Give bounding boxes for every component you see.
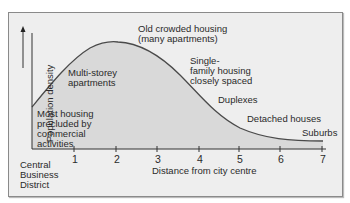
annotation-old-crowded: Old crowded housing (many apartments) (138, 24, 227, 44)
x-tick-6: 6 (275, 153, 287, 165)
x-tick-5: 5 (234, 153, 246, 165)
x-tick-2: 2 (111, 153, 123, 165)
annotation-suburbs: Suburbs (302, 128, 337, 138)
x-tick-4: 4 (194, 153, 206, 165)
annotation-duplexes: Duplexes (218, 95, 258, 105)
annotation-multi-storey: Multi-storey apartments (68, 68, 117, 88)
x-tick-1: 1 (69, 153, 81, 165)
annotation-detached: Detached houses (247, 114, 321, 124)
cbd-label-line3: District (20, 180, 49, 190)
x-tick-7: 7 (317, 153, 329, 165)
annotation-most-housing: Most housing precluded by commercial act… (37, 109, 94, 149)
x-tick-3: 3 (152, 153, 164, 165)
annotation-single-family: Single- family housing closely spaced (190, 56, 252, 86)
arrow-up-icon (21, 26, 26, 32)
x-axis-label: Distance from city centre (152, 166, 257, 176)
